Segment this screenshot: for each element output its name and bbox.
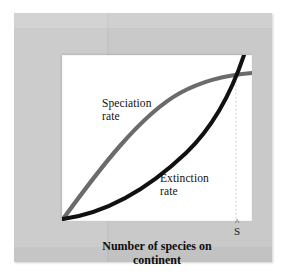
plot-panel: Speciationrate Extinctionrate (62, 55, 252, 221)
figure-mat-frame: Speciationrate Extinctionrate ^ S Number… (14, 13, 272, 262)
x-axis-caption-line1: Number of species on (28, 239, 286, 253)
figure-root: Speciationrate Extinctionrate ^ S Number… (0, 0, 288, 276)
x-axis-caption-line2: continent (28, 253, 286, 267)
extinction-rate-label: Extinctionrate (160, 172, 209, 197)
extinction-rate-label-line1: Extinction (160, 172, 209, 184)
equilibrium-species-marker: ^ S (229, 220, 245, 237)
extinction-rate-label-line2: rate (160, 185, 178, 197)
s-hat-letter: S (229, 225, 245, 237)
speciation-rate-label: Speciationrate (102, 97, 152, 122)
speciation-rate-label-line2: rate (102, 110, 120, 122)
speciation-rate-label-line1: Speciation (102, 97, 152, 109)
speciation-rate-curve (63, 73, 252, 219)
plot-svg (62, 55, 252, 221)
x-axis-caption: Number of species on continent (28, 239, 286, 267)
